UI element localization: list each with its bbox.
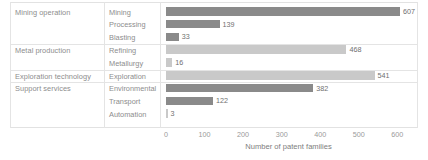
category-label-metallurgy: Metallurgy — [109, 59, 143, 68]
x-axis-label: Number of patent families — [160, 142, 417, 151]
bar-row[interactable]: 16 — [160, 57, 417, 70]
bar-row[interactable]: 541 — [160, 70, 417, 83]
table-border-right — [417, 2, 418, 128]
bar-automation[interactable] — [166, 109, 168, 118]
bar-row[interactable]: 3 — [160, 108, 417, 121]
bar-environmental[interactable] — [166, 84, 313, 93]
category-label-refining: Refining — [109, 46, 136, 55]
x-tick-400: 400 — [314, 130, 326, 139]
x-tick-300: 300 — [276, 130, 288, 139]
category-label-blasting: Blasting — [109, 33, 135, 42]
category-label-processing: Processing — [109, 20, 146, 29]
bar-value-transport: 122 — [216, 96, 228, 105]
x-tick-200: 200 — [237, 130, 249, 139]
x-tick-600: 600 — [391, 130, 403, 139]
group-label-mining-operation: Mining operation — [15, 8, 70, 17]
group-label-metal-production: Metal production — [15, 46, 70, 55]
bar-value-blasting: 33 — [182, 32, 190, 41]
bar-processing[interactable] — [166, 20, 220, 29]
group-label-exploration-technology: Exploration technology — [15, 72, 91, 81]
category-label-environmental: Environmental — [109, 84, 156, 93]
bar-mining[interactable] — [166, 7, 400, 16]
bar-plot-area: 60713933468165413821223 — [160, 2, 417, 128]
group-label-column: Mining operationMetal productionExplorat… — [10, 2, 104, 128]
category-label-transport: Transport — [109, 97, 140, 106]
bar-row[interactable]: 607 — [160, 6, 417, 19]
chart-container: Mining operationMetal productionExplorat… — [0, 0, 428, 160]
x-tick-0: 0 — [164, 130, 168, 139]
bar-value-refining: 468 — [349, 45, 361, 54]
bar-row[interactable]: 122 — [160, 95, 417, 108]
bar-value-exploration: 541 — [378, 71, 390, 80]
group-separator — [10, 82, 417, 83]
x-tick-500: 500 — [353, 130, 365, 139]
category-label-column: MiningProcessingBlastingRefiningMetallur… — [104, 2, 160, 128]
x-axis: Number of patent families 01002003004005… — [160, 128, 417, 160]
bar-value-environmental: 382 — [316, 84, 328, 93]
x-tick-100: 100 — [199, 130, 211, 139]
group-separator — [10, 44, 417, 45]
bar-metallurgy[interactable] — [166, 58, 172, 67]
bar-exploration[interactable] — [166, 71, 375, 80]
bar-row[interactable]: 139 — [160, 18, 417, 31]
bar-row[interactable]: 382 — [160, 82, 417, 95]
bar-blasting[interactable] — [166, 33, 179, 42]
group-separator — [10, 70, 417, 71]
bar-value-automation: 3 — [171, 109, 175, 118]
bar-transport[interactable] — [166, 97, 213, 106]
category-label-automation: Automation — [109, 110, 146, 119]
bar-value-metallurgy: 16 — [175, 58, 183, 67]
bar-refining[interactable] — [166, 45, 346, 54]
bar-value-mining: 607 — [403, 7, 415, 16]
bar-value-processing: 139 — [223, 20, 235, 29]
group-label-support-services: Support services — [15, 84, 71, 93]
bar-row[interactable]: 468 — [160, 44, 417, 57]
category-label-exploration: Exploration — [109, 72, 146, 81]
bar-row[interactable]: 33 — [160, 31, 417, 44]
category-label-mining: Mining — [109, 8, 131, 17]
